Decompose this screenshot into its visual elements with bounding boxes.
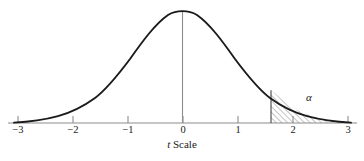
x-tick-label-neg3: −3 (12, 125, 23, 136)
x-tick-label-3: 3 (345, 125, 350, 136)
t-distribution-figure: −3 −2 −1 0 1 2 3 α t Scale (0, 0, 364, 161)
x-tick-label-1: 1 (235, 125, 240, 136)
x-tick-label-0: 0 (180, 125, 185, 136)
x-tick-label-neg2: −2 (67, 125, 78, 136)
x-axis-caption: t Scale (167, 139, 197, 150)
alpha-annotation-label: α (306, 92, 312, 103)
x-tick-label-neg1: −1 (122, 125, 133, 136)
x-tick-label-2: 2 (290, 125, 295, 136)
x-axis-caption-text: Scale (170, 138, 197, 150)
distribution-plot (0, 0, 364, 161)
